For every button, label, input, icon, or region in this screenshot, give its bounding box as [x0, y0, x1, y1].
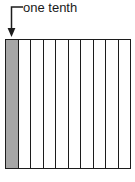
fraction-diagram-figure: one tenth — [0, 0, 135, 182]
bar-cell-8 — [94, 40, 107, 168]
annotation-label-one-tenth: one tenth — [23, 0, 77, 15]
bar-cell-10 — [119, 40, 131, 168]
bar-cell-7 — [81, 40, 94, 168]
bar-cell-1 — [6, 40, 19, 168]
bar-cell-6 — [69, 40, 82, 168]
subdivided-rectangle — [5, 39, 131, 169]
bar-cell-4 — [44, 40, 57, 168]
bar-cell-9 — [106, 40, 119, 168]
bar-cell-5 — [56, 40, 69, 168]
bar-cell-3 — [31, 40, 44, 168]
bar-cell-2 — [19, 40, 32, 168]
